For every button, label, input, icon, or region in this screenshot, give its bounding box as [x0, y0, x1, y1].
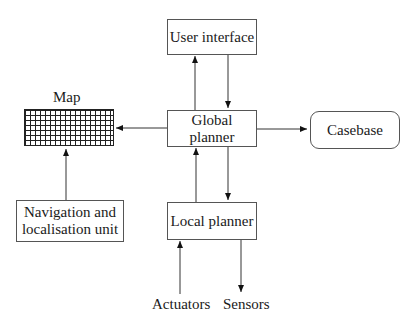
local-planner-box: Local planner: [167, 202, 257, 240]
map-label: Map: [53, 89, 81, 106]
casebase-box: Casebase: [310, 111, 400, 149]
navigation-unit-label-line1: Navigation and: [22, 204, 118, 221]
global-planner-box: Global planner: [167, 110, 257, 147]
user-interface-box: User interface: [167, 19, 257, 55]
navigation-unit-box: Navigation and localisation unit: [16, 200, 124, 242]
navigation-unit-label-line2: localisation unit: [22, 221, 118, 238]
sensors-label: Sensors: [223, 296, 270, 313]
user-interface-label: User interface: [170, 29, 255, 46]
local-planner-label: Local planner: [171, 213, 254, 230]
map-grid-icon: [24, 109, 114, 146]
casebase-label: Casebase: [327, 122, 383, 139]
global-planner-label: Global planner: [168, 112, 256, 146]
actuators-label: Actuators: [152, 296, 210, 313]
